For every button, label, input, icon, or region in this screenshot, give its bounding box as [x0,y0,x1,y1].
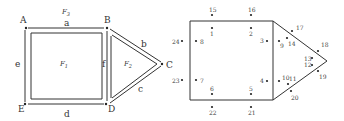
vertex-a-label: A [19,15,27,25]
edge-c-inner [112,64,157,98]
vertex-b-label: B [104,15,111,25]
point-16-label: 16 [248,6,256,13]
point-4-label: 4 [260,77,264,84]
point-10-dot [278,80,280,82]
edge-d-label: d [64,109,70,119]
vertex-b-dot [106,27,108,29]
vertex-c-label: C [166,60,173,70]
point-9-label: 9 [280,42,284,49]
edge-f-label: f [102,59,106,69]
point-2-label: 2 [249,30,253,37]
point-5-dot [250,93,252,95]
point-14-label: 14 [288,40,296,47]
point-18-label: 18 [321,41,329,48]
point-1-label: 1 [210,30,214,37]
edge-b-inner [112,35,157,64]
vertex-e-label: E [18,104,25,114]
point-6-label: 6 [210,85,214,92]
edge-c-label: c [138,84,143,94]
point-21-dot [250,106,252,108]
vertex-d-dot [105,103,107,105]
point-15-label: 15 [209,6,217,13]
point-24-dot [181,40,183,42]
edge-b-outer [110,29,161,62]
point-7-dot [195,79,197,81]
point-13-label: 13 [304,55,312,62]
edge-c-outer [110,66,161,103]
point-2-dot [250,27,252,29]
face-f2-label: F2 [123,60,132,69]
edge-a-label: a [64,18,70,28]
left-diagram: A B C D E F3 F1 F2 a b c d e f [15,8,173,119]
point-11-label: 11 [289,75,297,82]
point-11-dot [287,83,289,85]
point-22-label: 22 [209,109,217,116]
point-24-label: 24 [172,38,180,45]
point-20-dot [290,90,292,92]
point-6-dot [211,93,213,95]
point-1-dot [211,27,213,29]
point-7-label: 7 [200,77,204,84]
point-15-dot [211,14,213,16]
face-f3-label: F3 [61,8,70,17]
edge-e-label: e [15,59,20,69]
point-4-dot [266,80,268,82]
point-21-label: 21 [248,109,256,116]
point-23-label: 23 [172,77,180,84]
vertex-c-dot [161,63,163,65]
point-8-label: 8 [200,38,204,45]
point-23-dot [181,79,183,81]
point-19-dot [317,70,319,72]
point-22-dot [211,106,213,108]
point-17-label: 17 [296,24,304,31]
point-14-dot [286,37,288,39]
edge-b-label: b [141,39,147,49]
point-3-label: 3 [260,37,264,44]
point-16-dot [250,14,252,16]
point-12-label: 12 [304,61,312,68]
vertex-d-label: D [108,104,115,114]
face-f1-label: F1 [59,60,68,69]
point-8-dot [195,40,197,42]
point-17-dot [291,30,293,32]
point-20-label: 20 [291,94,299,101]
vertex-a-dot [25,27,27,29]
point-19-label: 19 [319,73,327,80]
point-5-label: 5 [249,85,253,92]
diagram-canvas: A B C D E F3 F1 F2 a b c d e f 123456789… [0,0,344,121]
right-diagram: 123456789101112131417181920151621222324 [172,6,329,116]
point-3-dot [266,40,268,42]
point-18-dot [317,50,319,52]
